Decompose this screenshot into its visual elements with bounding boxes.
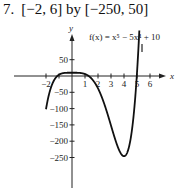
x-tick-label: 6 xyxy=(148,79,153,89)
y-tick-label: 50 xyxy=(59,55,69,65)
x-tick-label: −2 xyxy=(41,79,51,89)
y-axis-label: y xyxy=(68,23,73,33)
y-tick-label: −200 xyxy=(49,136,68,146)
axes: xy xyxy=(14,23,174,188)
y-axis-arrow xyxy=(70,34,75,41)
x-tick-label: 4 xyxy=(122,79,127,89)
y-tick-label: −50 xyxy=(54,87,69,97)
x-tick-label: 3 xyxy=(109,79,114,89)
function-graph: xy −212345650−50−100−150−200−250 f(x) = … xyxy=(0,0,191,190)
x-tick-label: 1 xyxy=(83,79,88,89)
y-tick-label: −250 xyxy=(49,153,68,163)
y-tick-label: −150 xyxy=(49,120,68,130)
y-tick-label: −100 xyxy=(49,104,68,114)
x-axis-arrow xyxy=(159,74,166,79)
ticks: −212345650−50−100−150−200−250 xyxy=(41,55,153,163)
x-axis-label: x xyxy=(169,71,174,81)
function-label: f(x) = x⁵ − 5x⁴ + 10 xyxy=(89,32,160,42)
